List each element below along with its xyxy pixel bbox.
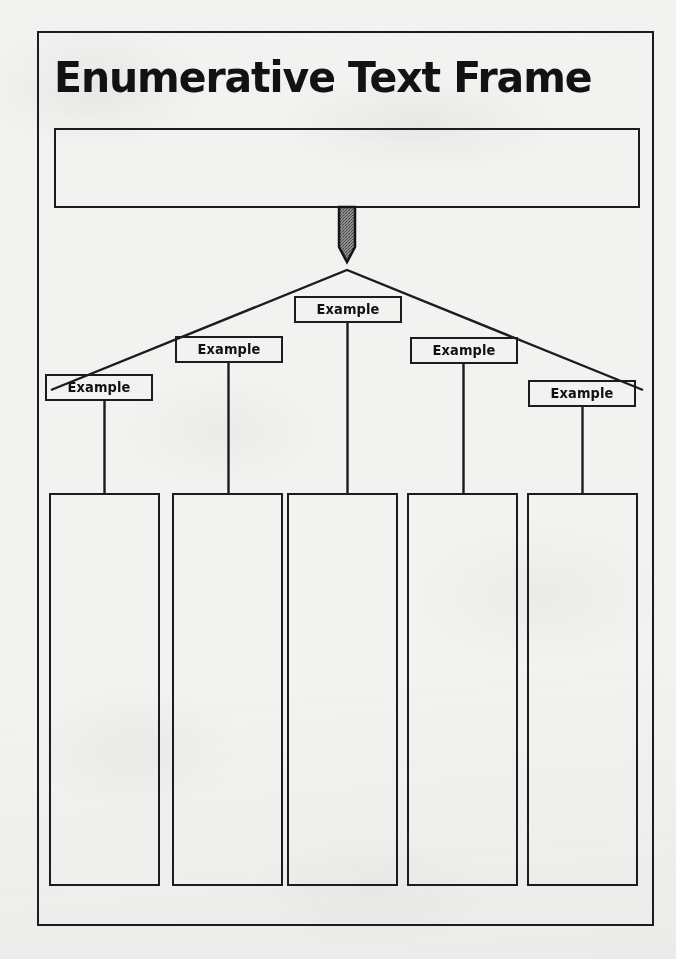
connector-layer <box>0 0 676 959</box>
down-arrow-icon <box>339 207 355 262</box>
